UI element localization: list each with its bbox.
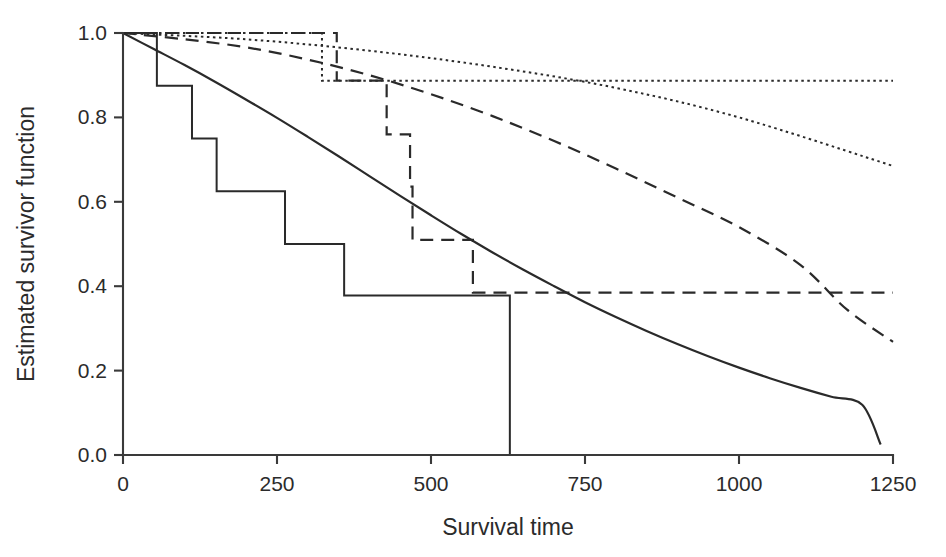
y-tick-label: 0.4 (78, 274, 108, 297)
y-axis-title: Estimated survivor function (13, 106, 39, 382)
axis-layer: 0.00.20.40.60.81.0 025050075010001250 (78, 21, 917, 495)
series-line-1 (123, 33, 881, 444)
y-tick-label: 0.6 (78, 190, 107, 213)
x-tick-label: 1250 (870, 472, 917, 495)
x-tick-label: 1000 (716, 472, 763, 495)
x-tick-label: 750 (567, 472, 602, 495)
series-layer (123, 33, 893, 455)
survival-plot-figure: 0.00.20.40.60.81.0 025050075010001250 Su… (0, 0, 946, 557)
x-tick-label: 500 (413, 472, 448, 495)
x-tick-group (123, 455, 893, 464)
y-tick-label-group: 0.00.20.40.60.81.0 (78, 21, 108, 466)
x-tick-label: 250 (259, 472, 294, 495)
x-tick-label-group: 025050075010001250 (117, 472, 916, 495)
series-line-0 (123, 33, 510, 455)
series-line-2 (123, 33, 893, 293)
chart-canvas: 0.00.20.40.60.81.0 025050075010001250 Su… (0, 0, 946, 557)
series-line-5 (123, 33, 893, 166)
y-tick-label: 0.2 (78, 359, 107, 382)
x-axis-title: Survival time (442, 514, 574, 540)
y-tick-label: 0.0 (78, 443, 107, 466)
y-tick-group (114, 33, 123, 455)
x-tick-label: 0 (117, 472, 129, 495)
series-line-4 (123, 33, 893, 81)
y-tick-label: 1.0 (78, 21, 107, 44)
y-tick-label: 0.8 (78, 105, 107, 128)
